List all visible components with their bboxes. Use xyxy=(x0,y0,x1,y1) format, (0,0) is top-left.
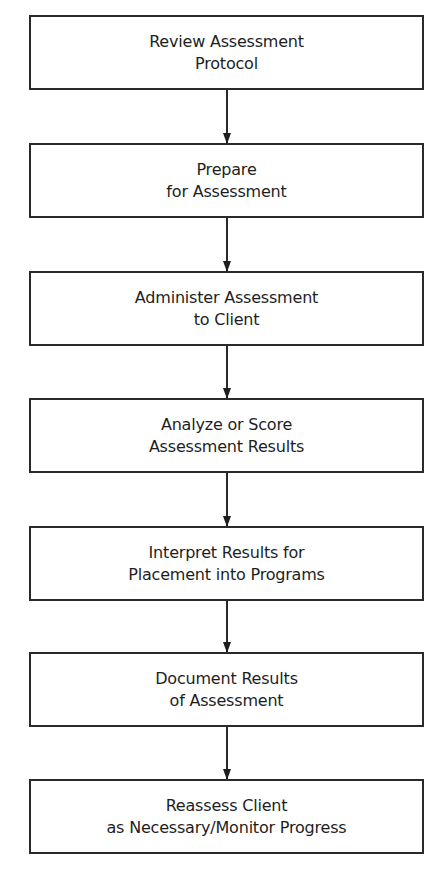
step-label-line2: Placement into Programs xyxy=(128,564,324,586)
arrow-down-icon xyxy=(226,218,228,272)
step-label-line1: Analyze or Score xyxy=(161,414,292,436)
step-document-results: Document Results of Assessment xyxy=(29,652,424,727)
step-review-assessment-protocol: Review Assessment Protocol xyxy=(29,15,424,90)
arrow-down-icon xyxy=(226,727,228,780)
step-label-line2: of Assessment xyxy=(170,690,284,712)
step-label-line1: Reassess Client xyxy=(166,795,288,817)
step-administer-assessment: Administer Assessment to Client xyxy=(29,271,424,346)
arrow-down-icon xyxy=(226,601,228,653)
step-prepare-for-assessment: Prepare for Assessment xyxy=(29,143,424,218)
step-label-line2: to Client xyxy=(194,309,260,331)
step-label-line1: Prepare xyxy=(196,159,256,181)
step-label-line2: Protocol xyxy=(195,53,258,75)
step-label-line2: Assessment Results xyxy=(149,436,304,458)
assessment-process-flowchart: Review Assessment Protocol Prepare for A… xyxy=(0,0,441,881)
step-label-line1: Document Results xyxy=(155,668,298,690)
step-reassess-client-monitor-progress: Reassess Client as Necessary/Monitor Pro… xyxy=(29,779,424,854)
step-label-line1: Administer Assessment xyxy=(135,287,318,309)
step-analyze-or-score-results: Analyze or Score Assessment Results xyxy=(29,398,424,473)
arrow-down-icon xyxy=(226,90,228,144)
step-interpret-results-for-placement: Interpret Results for Placement into Pro… xyxy=(29,526,424,601)
step-label-line2: for Assessment xyxy=(166,181,286,203)
arrow-down-icon xyxy=(226,473,228,527)
step-label-line1: Interpret Results for xyxy=(149,542,305,564)
step-label-line2: as Necessary/Monitor Progress xyxy=(107,817,347,839)
step-label-line1: Review Assessment xyxy=(149,31,304,53)
arrow-down-icon xyxy=(226,346,228,399)
